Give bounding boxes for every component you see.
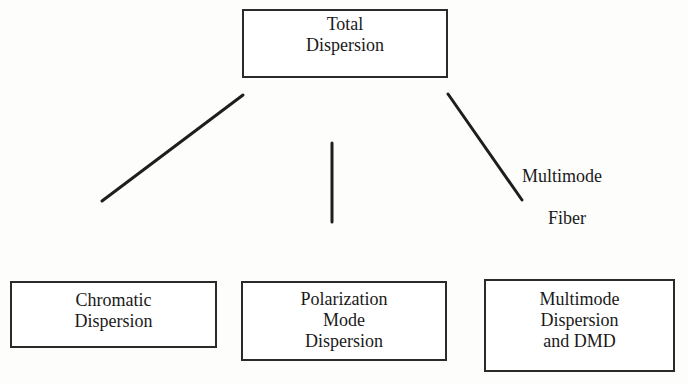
edge-label-multimode: Multimode — [522, 166, 602, 187]
node-text-line: and DMD — [543, 331, 616, 352]
node-text-line: Chromatic — [76, 290, 152, 311]
node-text-line: Multimode — [540, 289, 620, 310]
node-multimode-dispersion-dmd: Multimode Dispersion and DMD — [484, 279, 675, 372]
edge-total-to-chromatic — [102, 95, 243, 201]
node-polarization-mode-dispersion: Polarization Mode Dispersion — [241, 281, 447, 361]
node-text-line: Dispersion — [305, 331, 383, 352]
edge-total-to-multimode — [448, 94, 522, 200]
node-chromatic-dispersion: Chromatic Dispersion — [10, 281, 217, 348]
diagram-canvas: Total Dispersion Chromatic Dispersion Po… — [0, 0, 688, 384]
node-text-line: Total — [327, 14, 364, 35]
node-text-line: Mode — [323, 310, 365, 331]
edge-label-fiber: Fiber — [548, 208, 586, 229]
node-text-line: Dispersion — [306, 35, 384, 56]
node-total-dispersion: Total Dispersion — [242, 9, 448, 78]
node-text-line: Dispersion — [541, 310, 619, 331]
node-text-line: Polarization — [301, 289, 388, 310]
node-text-line: Dispersion — [75, 311, 153, 332]
